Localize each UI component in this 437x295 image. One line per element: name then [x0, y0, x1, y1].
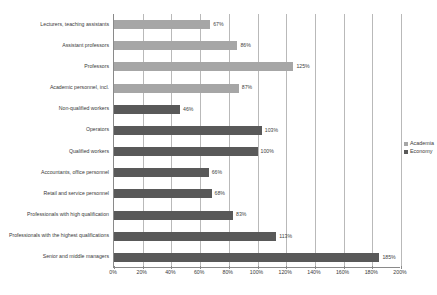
bar-rows: 67%86%125%87%46%103%100%66%68%83%113%185…	[114, 14, 400, 267]
value-axis-tick-label: 0%	[109, 270, 117, 275]
value-axis-tick-label: 60%	[194, 270, 204, 275]
bar-value-label: 67%	[213, 22, 223, 27]
legend-label: Academia	[410, 141, 434, 146]
bar	[114, 20, 210, 29]
bar	[114, 211, 233, 220]
plot-area: 67%86%125%87%46%103%100%66%68%83%113%185…	[113, 14, 400, 268]
bar-value-label: 86%	[240, 43, 250, 48]
category-label: Retail and service personnel	[0, 191, 109, 196]
value-axis-labels: 0%20%40%60%80%100%120%140%160%180%200%	[113, 270, 400, 282]
category-label: Assistant professors	[0, 43, 109, 48]
bar	[114, 168, 209, 177]
bar-row: 113%	[114, 231, 400, 241]
value-axis-tick-label: 100%	[250, 270, 263, 275]
bar-value-label: 66%	[212, 170, 222, 175]
value-axis-tick-label: 160%	[336, 270, 349, 275]
bar-value-label: 68%	[215, 191, 225, 196]
value-axis-tick-label: 120%	[279, 270, 292, 275]
value-axis-tick-label: 200%	[393, 270, 406, 275]
category-label: Academic personnel, incl.	[0, 85, 109, 90]
bar-value-label: 46%	[183, 107, 193, 112]
bar	[114, 232, 276, 241]
category-label: Senior and middle managers	[0, 255, 109, 260]
category-label: Professors	[0, 64, 109, 69]
legend-label: Economy	[410, 149, 432, 154]
bar-row: 66%	[114, 168, 400, 178]
bar	[114, 41, 237, 50]
bar-value-label: 125%	[296, 64, 309, 69]
chart-legend: AcademiaEconomy	[404, 141, 437, 158]
bar-row: 68%	[114, 189, 400, 199]
category-label: Professionals with high qualification	[0, 212, 109, 217]
legend-item[interactable]: Economy	[404, 149, 437, 154]
bar-row: 67%	[114, 20, 400, 30]
value-axis-tick-label: 80%	[223, 270, 233, 275]
bar-row: 46%	[114, 104, 400, 114]
category-axis-labels: Lecturers, teaching assistantsAssistant …	[0, 14, 109, 268]
bar	[114, 253, 379, 262]
bar-value-label: 87%	[242, 85, 252, 90]
bar	[114, 147, 258, 156]
legend-swatch-icon	[404, 150, 408, 154]
bar-chart: Lecturers, teaching assistantsAssistant …	[0, 0, 437, 295]
category-label: Professionals with the highest qualifica…	[0, 234, 109, 239]
category-label: Qualified workers	[0, 149, 109, 154]
bar-row: 125%	[114, 62, 400, 72]
category-label: Operators	[0, 128, 109, 133]
bar-row: 185%	[114, 252, 400, 262]
legend-swatch-icon	[404, 142, 408, 146]
bar-value-label: 113%	[279, 234, 292, 239]
bar	[114, 62, 293, 71]
bar-row: 87%	[114, 83, 400, 93]
legend-item[interactable]: Academia	[404, 141, 437, 146]
bar-row: 86%	[114, 41, 400, 51]
category-label: Non-qualified workers	[0, 107, 109, 112]
bar	[114, 84, 239, 93]
bar-value-label: 83%	[236, 212, 246, 217]
bar-row: 100%	[114, 147, 400, 157]
bar-value-label: 100%	[261, 149, 274, 154]
bar-row: 83%	[114, 210, 400, 220]
bar	[114, 126, 262, 135]
value-axis-tick-label: 20%	[136, 270, 146, 275]
category-label: Lecturers, teaching assistants	[0, 22, 109, 27]
category-label: Accountants, office personnel	[0, 170, 109, 175]
bar-row: 103%	[114, 125, 400, 135]
bar-value-label: 185%	[382, 255, 395, 260]
value-axis-tick-label: 180%	[365, 270, 378, 275]
bar	[114, 105, 180, 114]
value-axis-tick-label: 40%	[165, 270, 175, 275]
bar-value-label: 103%	[265, 128, 278, 133]
value-axis-tick-label: 140%	[307, 270, 320, 275]
gridline	[401, 14, 402, 267]
bar	[114, 189, 212, 198]
